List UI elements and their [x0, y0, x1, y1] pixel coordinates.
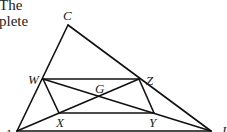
segment-CB	[68, 25, 211, 131]
label-X: X	[55, 115, 65, 130]
label-Y: Y	[149, 115, 158, 130]
label-G: G	[95, 81, 105, 96]
label-W: W	[28, 72, 40, 87]
segment-WB	[43, 79, 211, 131]
label-B: I	[221, 123, 227, 132]
label-A: A	[3, 126, 12, 132]
segment-WX	[43, 79, 59, 113]
label-C: C	[63, 8, 72, 23]
label-Z: Z	[146, 73, 154, 88]
triangle-diagram: C W Z G X Y A I	[0, 0, 227, 132]
